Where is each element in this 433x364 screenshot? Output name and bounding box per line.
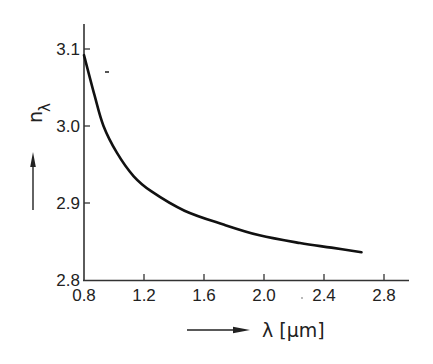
y-ticks: 2.82.93.03.1 <box>56 40 90 290</box>
y-axis-label: n λ <box>24 103 54 123</box>
x-axis-arrow-icon <box>187 327 250 333</box>
x-ticks: 0.81.21.62.02.42.8 <box>72 274 396 305</box>
data-line <box>84 55 362 252</box>
x-tick-label: 1.2 <box>132 286 156 305</box>
x-tick-label: 2.0 <box>252 286 276 305</box>
x-tick-label: 1.6 <box>192 286 216 305</box>
y-tick-label: 3.0 <box>56 117 80 136</box>
scan-artifact <box>105 71 109 73</box>
x-tick-label: 2.4 <box>312 286 336 305</box>
y-label-sub: λ <box>36 103 54 112</box>
y-axis-arrow-icon <box>30 152 36 210</box>
scan-artifact <box>301 297 303 299</box>
refractive-index-chart: 0.81.21.62.02.42.8 2.82.93.03.1 n λ λ [μ… <box>0 0 433 364</box>
y-tick-label: 3.1 <box>56 40 80 59</box>
x-axis-label: λ [μm] <box>262 319 325 341</box>
x-tick-label: 2.8 <box>372 286 396 305</box>
y-tick-label: 2.8 <box>56 271 80 290</box>
y-tick-label: 2.9 <box>56 194 80 213</box>
